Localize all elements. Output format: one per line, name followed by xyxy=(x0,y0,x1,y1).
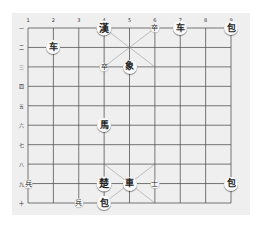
row-label: 六 xyxy=(19,123,24,128)
chess-piece[interactable]: 包 xyxy=(97,196,111,210)
column-label: 2 xyxy=(52,18,55,23)
row-label: 十 xyxy=(19,201,24,206)
row-label: 一 xyxy=(19,26,24,31)
chess-piece[interactable]: 包 xyxy=(224,177,238,191)
chess-piece[interactable]: 车 xyxy=(173,21,187,35)
chess-piece[interactable]: 車 xyxy=(123,177,137,191)
chess-piece[interactable]: 包 xyxy=(224,21,238,35)
row-label: 二 xyxy=(19,45,24,50)
row-label: 三 xyxy=(19,64,24,69)
chess-piece[interactable]: 馬 xyxy=(97,118,111,132)
row-label: 四 xyxy=(19,84,24,89)
column-label: 6 xyxy=(153,18,156,23)
chess-piece[interactable]: 漢 xyxy=(97,21,112,36)
chess-piece[interactable]: 兵 xyxy=(24,179,33,188)
chess-piece[interactable]: 卒 xyxy=(150,24,159,33)
chess-piece[interactable]: 楚 xyxy=(97,176,112,191)
column-label: 5 xyxy=(128,18,131,23)
chess-piece[interactable]: 兵 xyxy=(74,199,83,208)
chess-piece[interactable]: 卒 xyxy=(100,62,109,71)
board-grid xyxy=(0,0,264,230)
column-label: 8 xyxy=(204,18,207,23)
column-label: 1 xyxy=(26,18,29,23)
chess-piece[interactable]: 车 xyxy=(46,40,60,54)
chess-piece[interactable]: 象 xyxy=(123,60,137,74)
row-label: 五 xyxy=(19,103,24,108)
row-label: 七 xyxy=(19,142,24,147)
row-label: 八 xyxy=(19,162,24,167)
column-label: 3 xyxy=(77,18,80,23)
chess-piece[interactable]: 士 xyxy=(150,179,159,188)
